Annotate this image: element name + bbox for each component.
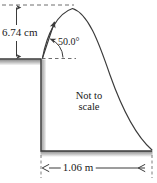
launch-height-label: 6.74 cm [2, 27, 37, 39]
launch-angle-label: 50.0° [58, 37, 80, 48]
projectile-figure: 6.74 cm 50.0° 1.06 m Not to scale [0, 0, 157, 183]
upper-ground-shadow [0, 60, 43, 66]
not-to-scale-note: Not to scale [76, 90, 103, 112]
horizontal-double-arrow [41, 155, 152, 178]
projectile-arc [43, 9, 153, 151]
not-to-scale-line2: scale [76, 101, 103, 112]
lower-ground-shadow [41, 151, 153, 157]
not-to-scale-line1: Not to [76, 90, 103, 101]
horizontal-range-label: 1.06 m [61, 162, 96, 174]
